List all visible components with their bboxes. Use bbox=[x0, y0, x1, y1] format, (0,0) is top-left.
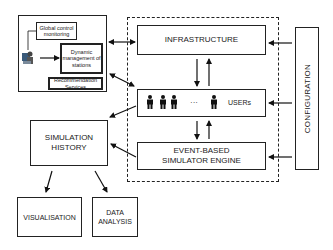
simulation-history-box: SIMULATION HISTORY bbox=[30, 120, 108, 166]
simulation-history-label: SIMULATION HISTORY bbox=[39, 133, 99, 153]
ellipsis: ··· bbox=[190, 98, 198, 108]
global-control-monitoring-box: Global control monitoring bbox=[36, 22, 77, 40]
event-based-engine-box: EVENT-BASED SIMULATOR ENGINE bbox=[137, 142, 266, 170]
visualisation-box: VISUALISATION bbox=[17, 197, 82, 237]
global-control-monitoring-label: Global control monitoring bbox=[37, 25, 76, 38]
person-icon bbox=[170, 95, 178, 112]
infrastructure-label: INFRASTRUCTURE bbox=[165, 35, 238, 45]
person-icon bbox=[210, 95, 218, 112]
dynamic-management-label: Dynamic management of stations bbox=[62, 49, 101, 69]
configuration-box: CONFIGURATION bbox=[295, 27, 319, 170]
recommendation-services-label: Recommendation Services bbox=[50, 77, 101, 90]
person-icon bbox=[159, 95, 167, 112]
visualisation-label: VISUALISATION bbox=[23, 214, 75, 221]
users-box: ··· USERs bbox=[137, 89, 266, 117]
operator-computer-icon bbox=[22, 50, 34, 65]
configuration-label: CONFIGURATION bbox=[303, 64, 312, 133]
recommendation-services-box: Recommendation Services bbox=[48, 77, 103, 90]
infrastructure-box: INFRASTRUCTURE bbox=[137, 25, 266, 55]
person-icon bbox=[146, 95, 154, 112]
dynamic-management-box: Dynamic management of stations bbox=[60, 43, 103, 74]
data-analysis-box: DATA ANALYSIS bbox=[92, 197, 138, 237]
data-analysis-label: DATA ANALYSIS bbox=[97, 208, 133, 226]
users-label: USERs bbox=[228, 98, 251, 108]
event-based-engine-label: EVENT-BASED SIMULATOR ENGINE bbox=[154, 146, 249, 166]
